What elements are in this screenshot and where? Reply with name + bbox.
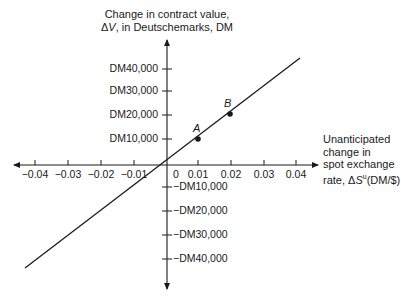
x-axis-title-prefix: rate, Δ: [323, 173, 355, 185]
contract-value-line: [25, 58, 300, 268]
y-axis-title: Change in contract value, ΔV, in Deutsch…: [100, 8, 234, 34]
y-tick-label: −DM10,000: [173, 180, 228, 192]
y-tick-label: −DM30,000: [173, 228, 228, 240]
y-tick-label: DM10,000: [110, 132, 158, 144]
x-variable: S: [355, 173, 362, 185]
y-tick-label: DM40,000: [110, 62, 158, 74]
point-b-label: B: [224, 97, 231, 109]
y-axis-title-line2: ΔV, in Deutschemarks, DM: [100, 21, 234, 34]
point-a-label: A: [193, 122, 200, 134]
y-variable: V: [108, 21, 115, 33]
x-axis-title: Unanticipated change in spot exchange ra…: [323, 133, 400, 186]
x-axis-title-line4: rate, ΔSu(DM/$): [323, 171, 400, 186]
y-axis-title-line1: Change in contract value,: [100, 8, 234, 21]
y-tick-label: DM20,000: [110, 108, 158, 120]
x-axis-title-line1: Unanticipated: [323, 133, 400, 146]
x-axis-title-unit: (DM/$): [367, 173, 401, 185]
y-axis-title-unit: , in Deutschemarks, DM: [116, 21, 233, 33]
x-axis-title-line2: change in: [323, 146, 400, 159]
y-tick-label: DM30,000: [110, 84, 158, 96]
point-a-marker: [195, 136, 201, 142]
y-tick-label: −DM40,000: [173, 252, 228, 264]
x-tick-label: 0.04: [276, 168, 316, 180]
y-tick-label: −DM20,000: [173, 204, 228, 216]
point-b-marker: [227, 111, 233, 117]
x-tick-label: −0.01: [114, 168, 154, 180]
x-axis-title-line3: spot exchange: [323, 158, 400, 171]
